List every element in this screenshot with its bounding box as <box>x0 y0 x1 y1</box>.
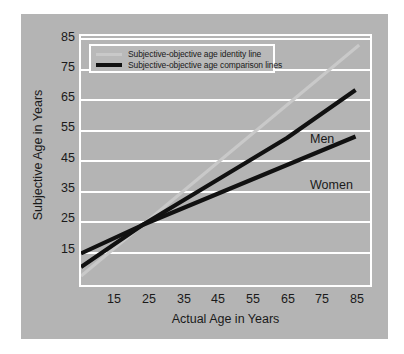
chart-series-lines <box>81 36 370 285</box>
x-axis-tick-labels: 15 25 35 45 55 65 75 85 <box>0 292 404 308</box>
legend-label-identity: Subjective-objective age identity line <box>128 49 261 59</box>
y-tick-25: 25 <box>49 212 75 225</box>
women-line-series <box>81 136 356 253</box>
legend-swatch-comparison-line-icon <box>96 63 122 67</box>
y-tick-45: 45 <box>49 152 75 165</box>
x-tick-15: 15 <box>94 292 134 306</box>
x-tick-75: 75 <box>302 292 342 306</box>
x-tick-25: 25 <box>129 292 169 306</box>
x-tick-85: 85 <box>337 292 377 306</box>
identity-line-series <box>81 45 359 276</box>
x-tick-45: 45 <box>198 292 238 306</box>
legend-entry-comparison: Subjective-objective age comparison line… <box>96 59 282 71</box>
legend-swatch-identity-line-icon <box>96 53 122 56</box>
chart-figure: Subjective Age in Years 85 75 65 55 45 3… <box>0 0 404 354</box>
y-tick-65: 65 <box>49 91 75 104</box>
y-tick-35: 35 <box>49 182 75 195</box>
series-annotation-women: Women <box>310 178 353 192</box>
chart-legend: Subjective-objective age identity line S… <box>89 44 275 73</box>
legend-label-comparison: Subjective-objective age comparison line… <box>128 60 282 70</box>
y-axis-label: Subjective Age in Years <box>31 55 45 255</box>
x-axis-label: Actual Age in Years <box>79 312 372 326</box>
y-tick-75: 75 <box>49 61 75 74</box>
y-tick-15: 15 <box>49 243 75 256</box>
series-annotation-men: Men <box>310 132 334 146</box>
y-tick-85: 85 <box>49 31 75 44</box>
y-tick-55: 55 <box>49 121 75 134</box>
x-tick-55: 55 <box>233 292 273 306</box>
